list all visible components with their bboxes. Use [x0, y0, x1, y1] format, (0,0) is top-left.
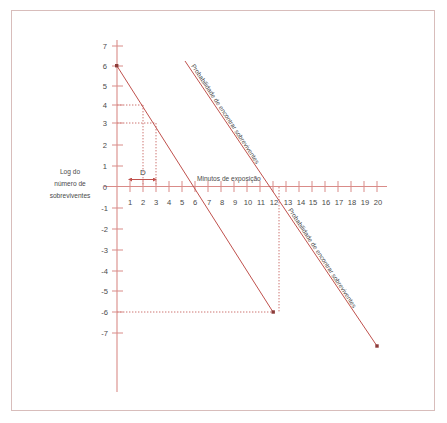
axes: [104, 40, 387, 392]
x-tick-label-7: 7: [207, 198, 211, 207]
y-tick-label-5: 5: [103, 82, 107, 91]
y-tick-label-0: 0: [103, 183, 107, 192]
y-tick-label-neg6: -6: [101, 308, 108, 317]
x-tick-label-1: 1: [128, 198, 132, 207]
guide-lines: [117, 105, 279, 312]
y-tick-label-2: 2: [103, 141, 107, 150]
series-1-marker-end: [272, 310, 275, 313]
y-tick-label-3: 3: [103, 119, 107, 128]
series-1-path: [117, 66, 273, 312]
x-tick-label-15: 15: [309, 198, 317, 207]
x-tick-label-2: 2: [141, 198, 145, 207]
x-tick-label-13: 13: [284, 198, 292, 207]
x-axis-title: Minutos de exposição: [197, 175, 261, 183]
series-1-marker-start: [115, 64, 118, 67]
y-tick-label-1: 1: [103, 162, 107, 171]
x-tick-label-19: 19: [361, 198, 369, 207]
y-axis-title-line-2: número de: [54, 180, 86, 187]
figure-root: 7 6 5 4 3 2 1 0 -1 -2 -3 -4 -5 -6 -7: [0, 0, 447, 423]
x-tick-label-8: 8: [220, 198, 224, 207]
chart-canvas: 7 6 5 4 3 2 1 0 -1 -2 -3 -4 -5 -6 -7: [0, 0, 447, 423]
y-tick-label-7: 7: [103, 42, 107, 51]
y-tick-label-6: 6: [103, 62, 107, 71]
x-tick-label-16: 16: [322, 198, 330, 207]
y-tick-label-4: 4: [103, 101, 107, 110]
y-axis-title-line-3: sobreviventes: [50, 192, 91, 199]
y-tick-label-neg7: -7: [101, 329, 108, 338]
x-tick-label-5: 5: [180, 198, 184, 207]
y-tick-label-neg5: -5: [101, 287, 108, 296]
y-axis-tick-labels: 7 6 5 4 3 2 1 0 -1 -2 -3 -4 -5 -6 -7: [101, 42, 108, 338]
x-tick-label-6: 6: [193, 198, 197, 207]
x-tick-label-14: 14: [297, 198, 305, 207]
y-tick-label-neg1: -1: [101, 204, 108, 213]
series-line-1: [115, 64, 275, 314]
x-tick-label-17: 17: [335, 198, 343, 207]
x-tick-label-11: 11: [257, 198, 265, 207]
x-tick-label-9: 9: [233, 198, 237, 207]
x-tick-label-3: 3: [154, 198, 158, 207]
y-axis-title-line-1: Log do: [60, 168, 81, 176]
x-tick-label-18: 18: [348, 198, 356, 207]
y-tick-label-neg4: -4: [101, 267, 108, 276]
series-1-label: Probabilidade de encontrar sobreviventes: [190, 63, 261, 165]
y-tick-label-neg2: -2: [101, 225, 108, 234]
d-label: D: [140, 168, 146, 177]
x-tick-label-12: 12: [270, 198, 278, 207]
x-axis-tick-labels: 1 2 3 4 5 6 7 8 9 10 11 12 13 14 15 16 1…: [128, 198, 382, 207]
x-tick-label-20: 20: [374, 198, 382, 207]
series-2-label: Probabilidade de encontrar sobreviventes: [287, 207, 358, 309]
x-tick-label-4: 4: [167, 198, 171, 207]
x-tick-label-10: 10: [244, 198, 252, 207]
y-tick-label-neg3: -3: [101, 246, 108, 255]
y-axis-title: Log do número de sobreviventes: [50, 168, 91, 199]
series-2-marker-end: [375, 344, 378, 347]
